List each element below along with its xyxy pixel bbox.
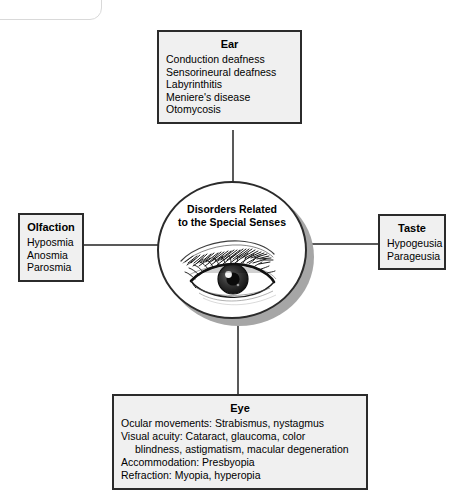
center-node[interactable]: Disorders Related to the Special Senses: [157, 181, 307, 319]
page-edge-artifact: [0, 0, 102, 20]
node-box-eye[interactable]: Eye Ocular movements: Strabismus, nystag…: [112, 394, 368, 490]
list-item: Parageusia: [387, 250, 437, 263]
connector-ear-to-center: [232, 130, 234, 183]
connector-taste-to-center: [303, 243, 380, 245]
connector-olfaction-to-center: [82, 244, 160, 246]
center-title-line-1: Disorders Related: [157, 203, 307, 216]
list-item: Hypogeusia: [387, 237, 437, 250]
diagram-canvas: Ear Conduction deafness Sensorineural de…: [0, 0, 468, 499]
list-item-continuation: blindness, astigmatism, macular degenera…: [121, 443, 359, 456]
list-item: Ocular movements: Strabismus, nystagmus: [121, 417, 359, 430]
list-item: Anosmia: [27, 249, 75, 262]
node-box-taste[interactable]: Taste Hypogeusia Parageusia: [378, 214, 446, 270]
node-box-olfaction[interactable]: Olfaction Hyposmia Anosmia Parosmia: [18, 213, 84, 282]
list-item: Visual acuity: Cataract, glaucoma, color: [121, 430, 359, 443]
list-item: Labyrinthitis: [166, 78, 293, 91]
human-eye-illustration: [173, 235, 293, 309]
list-item: Conduction deafness: [166, 53, 293, 66]
node-title-olfaction: Olfaction: [27, 220, 75, 234]
center-title-line-2: to the Special Senses: [157, 216, 307, 229]
center-node-title: Disorders Related to the Special Senses: [157, 203, 307, 229]
list-item: Meniere's disease: [166, 91, 293, 104]
node-list-taste: Hypogeusia Parageusia: [387, 237, 437, 262]
list-item: Refraction: Myopia, hyperopia: [121, 469, 359, 482]
node-box-ear[interactable]: Ear Conduction deafness Sensorineural de…: [157, 30, 302, 124]
node-list-olfaction: Hyposmia Anosmia Parosmia: [27, 236, 75, 274]
node-list-ear: Conduction deafness Sensorineural deafne…: [166, 53, 293, 116]
connector-center-to-eye: [237, 316, 239, 396]
list-item: Sensorineural deafness: [166, 66, 293, 79]
list-item: Parosmia: [27, 261, 75, 274]
node-list-eye: Ocular movements: Strabismus, nystagmus …: [121, 417, 359, 482]
node-title-taste: Taste: [387, 221, 437, 235]
list-item: Hyposmia: [27, 236, 75, 249]
node-title-eye: Eye: [121, 401, 359, 415]
node-title-ear: Ear: [166, 37, 293, 51]
list-item: Accommodation: Presbyopia: [121, 456, 359, 469]
list-item: Otomycosis: [166, 103, 293, 116]
